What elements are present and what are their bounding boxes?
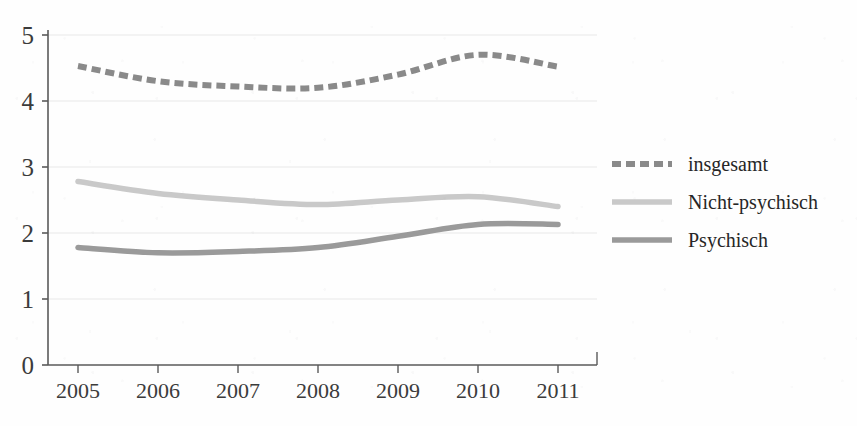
data-series <box>78 55 558 253</box>
x-tick-label-2006: 2006 <box>136 378 180 403</box>
x-tick-label-2010: 2010 <box>456 378 500 403</box>
x-tick-label-2011: 2011 <box>536 378 579 403</box>
gridlines <box>48 35 597 299</box>
y-tick-label-3: 3 <box>22 154 35 181</box>
y-axis <box>42 30 48 365</box>
y-tick-labels: 5 4 3 2 1 0 <box>22 22 35 379</box>
legend-label-insgesamt: insgesamt <box>688 153 768 176</box>
legend-label-nicht-psychisch: Nicht-psychisch <box>688 191 818 214</box>
y-tick-label-2: 2 <box>22 220 35 247</box>
y-tick-label-0: 0 <box>22 352 35 379</box>
x-tick-label-2007: 2007 <box>216 378 260 403</box>
legend: insgesamt Nicht-psychisch Psychisch <box>612 153 818 252</box>
series-line-psychisch <box>78 224 558 253</box>
x-tick-label-2009: 2009 <box>376 378 420 403</box>
y-tick-label-1: 1 <box>22 286 35 313</box>
chart-container: 5 4 3 2 1 0 2005 2006 2007 2008 2009 20 <box>0 0 857 426</box>
y-tick-label-4: 4 <box>22 88 35 115</box>
y-tick-label-5: 5 <box>22 22 35 49</box>
x-tick-label-2008: 2008 <box>296 378 340 403</box>
series-line-insgesamt <box>78 55 558 89</box>
x-tick-labels: 2005 2006 2007 2008 2009 2010 2011 <box>56 378 580 403</box>
line-chart: 5 4 3 2 1 0 2005 2006 2007 2008 2009 20 <box>0 0 857 426</box>
series-line-nicht-psychisch <box>78 182 558 207</box>
x-axis <box>48 352 597 373</box>
legend-label-psychisch: Psychisch <box>688 229 768 252</box>
x-tick-label-2005: 2005 <box>56 378 100 403</box>
